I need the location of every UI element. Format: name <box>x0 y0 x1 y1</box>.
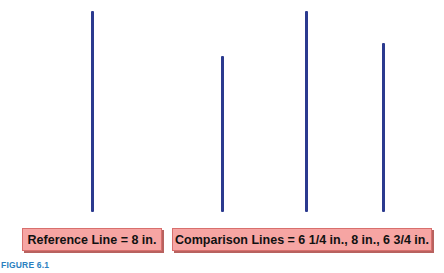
comparison-line-3 <box>382 43 385 212</box>
comparison-line-1 <box>221 56 224 212</box>
reference-label-box: Reference Line = 8 in. <box>22 228 162 251</box>
comparison-label-box: Comparison Lines = 6 1/4 in., 8 in., 6 3… <box>172 228 432 251</box>
reference-line <box>91 11 94 212</box>
comparison-line-2 <box>305 11 308 212</box>
comparison-label: Comparison Lines = 6 1/4 in., 8 in., 6 3… <box>175 233 429 247</box>
reference-label: Reference Line = 8 in. <box>28 233 157 247</box>
figure-caption: FIGURE 6.1 <box>1 260 49 270</box>
